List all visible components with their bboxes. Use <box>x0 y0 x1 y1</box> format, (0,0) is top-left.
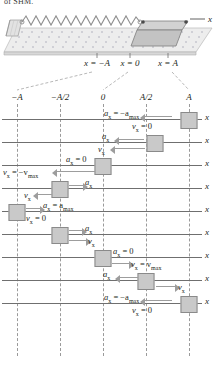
acceleration-label-row-6: ax = 0 <box>113 247 134 258</box>
spring-coil <box>22 16 140 25</box>
block-row-8 <box>181 296 198 313</box>
motion-row-t-4-left-turning-point: xax = amaxvx = 0 <box>0 200 220 223</box>
acceleration-label-row-0: ax = −amax <box>104 109 139 120</box>
axis-symbol-row-3: x <box>205 181 209 191</box>
block-row-7 <box>138 273 155 290</box>
motion-row-t-1-moving-left-from-A: xaxvx <box>0 131 220 154</box>
acceleration-label-row-8: ax = −amax <box>104 293 139 304</box>
axis-tick-0: −A <box>11 92 23 102</box>
block-hook-right <box>184 20 188 24</box>
axis-symbol-row-6: x <box>205 250 209 260</box>
acceleration-arrow-row-3 <box>69 185 83 186</box>
position-label-minus-A: x = −A <box>84 58 110 68</box>
leader-lines <box>0 70 220 92</box>
acceleration-label-row-3: ax <box>85 178 92 189</box>
motion-row-t-7-decelerating-toward-A: xaxvx <box>0 269 220 292</box>
acceleration-label-row-1: ax <box>102 132 109 143</box>
axis-symbol-row-4: x <box>205 204 209 214</box>
block-row-6 <box>95 250 112 267</box>
velocity-label-row-8: vx = 0 <box>132 306 152 317</box>
axis-tick-1: −A/2 <box>51 92 70 102</box>
acceleration-arrow-row-8 <box>145 300 172 301</box>
acceleration-arrow-row-0 <box>145 116 172 117</box>
axis-line-row-3 <box>2 188 202 189</box>
axis-tick-labels: −A−A/20A/2A <box>0 92 220 106</box>
apparatus-position-captions: x = −A x = 0 x = A <box>0 58 220 70</box>
velocity-arrow-row-5 <box>69 240 86 241</box>
motion-row-t-3-decelerating-toward-minus-A: xaxvx <box>0 177 220 200</box>
axis-line-row-5 <box>2 234 202 235</box>
axis-symbol-row-5: x <box>205 227 209 237</box>
axis-line-row-0 <box>2 119 202 120</box>
velocity-arrow-row-6 <box>112 263 129 264</box>
acceleration-arrow-row-1 <box>119 139 144 140</box>
acceleration-label-row-5: ax <box>85 224 92 235</box>
block-hook-left <box>141 20 145 24</box>
track-front-edge <box>4 52 196 55</box>
axis-symbol-row-1: x <box>205 135 209 145</box>
block-row-2 <box>95 158 112 175</box>
block-row-1 <box>147 135 164 152</box>
motion-row-t-5-moving-right-from-minus-A: xaxvx <box>0 223 220 246</box>
axis-line-row-7 <box>2 280 202 281</box>
axis-line-row-4 <box>2 211 202 212</box>
axis-tick-4: A <box>186 92 192 102</box>
axis-symbol-row-8: x <box>205 296 209 306</box>
block-row-5 <box>52 227 69 244</box>
axis-tick-3: A/2 <box>140 92 153 102</box>
motion-row-t-8-right-turning-point-again: xax = −amaxvx = 0 <box>0 292 220 315</box>
apparatus-axis-label: x <box>207 14 212 24</box>
velocity-arrow-row-2 <box>57 171 95 172</box>
velocity-arrow-row-1 <box>115 148 145 149</box>
position-label-zero: x = 0 <box>120 58 139 68</box>
motion-row-t-0-right-turning-point: xax = −amaxvx = 0 <box>0 108 220 131</box>
axis-symbol-row-2: x <box>205 158 209 168</box>
block-row-0 <box>181 112 198 129</box>
position-label-A: x = A <box>158 58 178 68</box>
acceleration-arrow-row-7 <box>120 277 138 278</box>
shm-figure: of SHM. <box>0 0 220 370</box>
block-front-face <box>131 30 182 46</box>
apparatus-illustration: x <box>0 6 220 58</box>
axis-symbol-row-7: x <box>205 273 209 283</box>
axis-symbol-row-0: x <box>205 112 209 122</box>
axis-tick-2: 0 <box>101 92 106 102</box>
acceleration-arrow-row-4 <box>26 208 40 209</box>
axis-line-row-8 <box>2 303 202 304</box>
block-row-3 <box>52 181 69 198</box>
velocity-arrow-row-7 <box>156 286 175 287</box>
acceleration-label-row-7: ax <box>103 270 110 281</box>
acceleration-label-row-2: ax = 0 <box>66 155 87 166</box>
motion-row-t-6-through-equilibrium-rightward: xax = 0vx = vmax <box>0 246 220 269</box>
block-row-4 <box>9 204 26 221</box>
acceleration-label-row-4: ax = amax <box>43 201 73 212</box>
acceleration-arrow-row-5 <box>69 230 82 231</box>
motion-row-t-2-through-equilibrium-leftward: xax = 0vx = −vmax <box>0 154 220 177</box>
